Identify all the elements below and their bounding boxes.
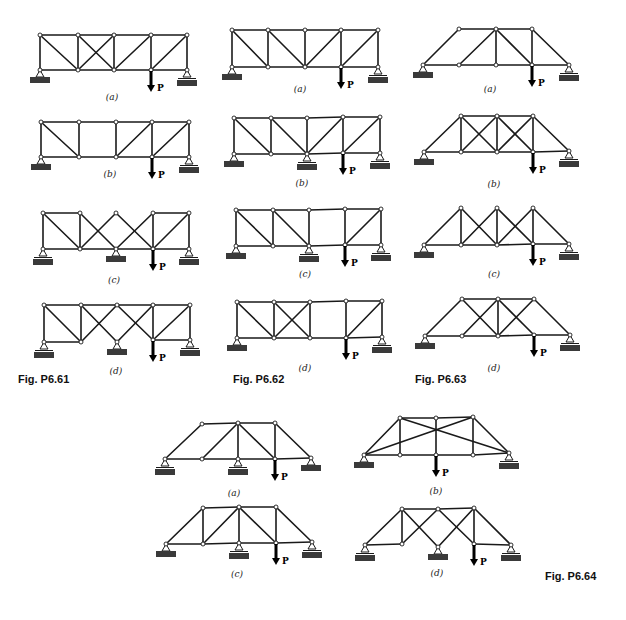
load-arrow-icon bbox=[341, 246, 349, 267]
joint-pin bbox=[274, 505, 278, 509]
joint-pin bbox=[303, 28, 307, 32]
joint-pin bbox=[459, 150, 463, 154]
truss-member bbox=[44, 305, 81, 342]
joint-pin bbox=[150, 120, 154, 124]
load-label: P bbox=[159, 262, 166, 272]
joint-pin bbox=[307, 244, 311, 248]
subfigure-label: (d) bbox=[431, 568, 444, 578]
joint-pin bbox=[76, 33, 80, 37]
truss-member bbox=[533, 151, 569, 152]
joint-pin bbox=[112, 68, 116, 72]
joint-pin bbox=[436, 545, 440, 549]
joint-pin bbox=[310, 540, 314, 544]
truss-member bbox=[423, 29, 459, 65]
truss-member bbox=[202, 423, 238, 424]
joint-pin bbox=[151, 211, 155, 215]
subfigure-label: (b) bbox=[430, 486, 443, 496]
truss-member bbox=[166, 508, 203, 544]
joint-pin bbox=[531, 206, 535, 210]
joint-pin bbox=[164, 542, 168, 546]
truss-member bbox=[153, 305, 190, 340]
subfigure-label: (b) bbox=[104, 169, 117, 179]
joint-pin bbox=[379, 207, 383, 211]
truss-member bbox=[276, 542, 312, 543]
joint-pin bbox=[509, 543, 513, 547]
truss-member bbox=[532, 29, 569, 65]
truss-member bbox=[341, 30, 378, 67]
truss-b: P(b) bbox=[31, 120, 199, 180]
joint-pin bbox=[421, 63, 425, 67]
truss-member bbox=[43, 213, 80, 249]
joint-pin bbox=[343, 207, 347, 211]
truss-b: P(b) bbox=[224, 115, 390, 188]
truss-member bbox=[234, 118, 271, 154]
figure-caption: Fig. P6.61 bbox=[18, 373, 69, 385]
joint-pin bbox=[380, 335, 384, 339]
subfigure-label: (d) bbox=[488, 363, 501, 373]
joint-pin bbox=[41, 211, 45, 215]
figure-P6-63: P(a)P(b)P(c)P(d)Fig. P6.63 bbox=[413, 27, 580, 385]
load-label: P bbox=[281, 472, 288, 482]
joint-pin bbox=[494, 27, 498, 31]
joint-pin bbox=[271, 244, 275, 248]
truss-c: P(c) bbox=[33, 211, 199, 285]
joint-pin bbox=[230, 28, 234, 32]
joint-pin bbox=[303, 65, 307, 69]
truss-member bbox=[268, 30, 305, 67]
joint-pin bbox=[237, 541, 241, 545]
figure-P6-64: P(a)P(b)P(c)P(d)Fig. P6.64 bbox=[155, 415, 597, 582]
joint-pin bbox=[400, 507, 404, 511]
figure-caption: Fig. P6.62 bbox=[233, 373, 284, 385]
truss-member bbox=[203, 507, 239, 544]
joint-pin bbox=[187, 247, 191, 251]
load-label: P bbox=[351, 258, 358, 268]
truss-member bbox=[496, 29, 532, 65]
subfigure-label: (c) bbox=[299, 269, 312, 279]
joint-pin bbox=[79, 340, 83, 344]
load-label: P bbox=[539, 257, 546, 267]
joint-pin bbox=[376, 28, 380, 32]
truss-problem-sheet: P(a)P(b)P(c)P(d)Fig. P6.61P(a)P(b)P(c)P(… bbox=[0, 0, 626, 620]
load-label: P bbox=[159, 353, 166, 363]
truss-member bbox=[533, 208, 569, 244]
joint-pin bbox=[378, 115, 382, 119]
truss-member bbox=[238, 423, 275, 459]
load-arrow-icon bbox=[432, 456, 440, 477]
joint-pin bbox=[362, 453, 366, 457]
subfigure-label: (c) bbox=[231, 569, 244, 579]
joint-pin bbox=[305, 152, 309, 156]
load-label: P bbox=[349, 166, 356, 176]
truss-member bbox=[436, 417, 473, 418]
truss-member bbox=[473, 453, 509, 455]
joint-pin bbox=[38, 33, 42, 37]
load-arrow-icon bbox=[148, 158, 156, 179]
load-label: P bbox=[158, 170, 165, 180]
load-arrow-icon bbox=[271, 460, 279, 481]
subfigure-label: (d) bbox=[110, 366, 123, 376]
load-arrow-icon bbox=[528, 66, 536, 87]
truss-member bbox=[474, 508, 511, 545]
joint-pin bbox=[112, 33, 116, 37]
joint-pin bbox=[568, 333, 572, 337]
truss-a: P(a) bbox=[413, 27, 579, 94]
joint-pin bbox=[41, 247, 45, 251]
joint-pin bbox=[422, 150, 426, 154]
joint-pin bbox=[495, 206, 499, 210]
load-label: P bbox=[347, 80, 354, 90]
joint-pin bbox=[115, 303, 119, 307]
truss-member bbox=[202, 423, 238, 459]
joint-pin bbox=[457, 27, 461, 31]
load-arrow-icon bbox=[149, 341, 157, 362]
truss-member bbox=[271, 118, 307, 154]
truss-member bbox=[165, 424, 202, 459]
truss-member bbox=[307, 153, 343, 154]
joint-pin bbox=[567, 242, 571, 246]
truss-member bbox=[307, 117, 343, 154]
joint-pin bbox=[38, 68, 42, 72]
joint-pin bbox=[459, 243, 463, 247]
joint-pin bbox=[380, 299, 384, 303]
truss-member bbox=[276, 507, 312, 542]
truss-member bbox=[305, 30, 341, 67]
joint-pin bbox=[422, 243, 426, 247]
load-label: P bbox=[442, 468, 449, 478]
